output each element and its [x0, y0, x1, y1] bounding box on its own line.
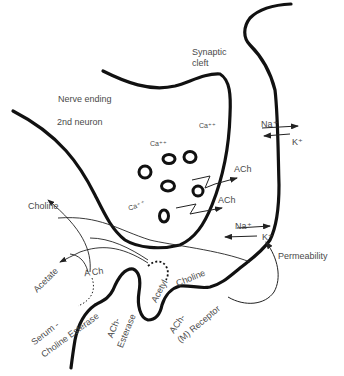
potassium-label-top: K⁺: [292, 138, 303, 147]
ach-release-label-2: ACh: [218, 196, 236, 205]
choline-label-left: Choline: [28, 202, 59, 211]
calcium-label-2: Ca⁺⁺: [199, 122, 216, 129]
ach-release-arrow-2: [176, 204, 222, 214]
nerve-ending-membrane: [13, 71, 230, 248]
ach-release-label-1: ACh: [234, 165, 252, 174]
acetylcholine-binding-dotted: [148, 262, 168, 281]
potassium-label-bottom: K⁺: [262, 233, 273, 242]
permeability-label: Permeability: [278, 252, 328, 261]
serum-esterase-dotted: [78, 278, 93, 306]
sodium-label-bottom: Na⁺: [235, 222, 252, 231]
synapse-diagram: [0, 0, 344, 376]
synaptic-cleft-label-2: cleft: [192, 59, 209, 68]
second-neuron-label: 2nd neuron: [57, 118, 103, 127]
choline-return-arrow: [58, 218, 250, 262]
sodium-label-top: Na⁺: [261, 120, 278, 129]
k-arrow-bottom: [225, 236, 257, 237]
vesicles: [139, 152, 203, 223]
acetate-arrow: [60, 248, 148, 263]
synaptic-cleft-label-1: Synaptic: [192, 48, 227, 57]
nerve-ending-label: Nerve ending: [58, 95, 112, 104]
choline-line-upper: [90, 238, 148, 260]
calcium-label-1: Ca⁺⁺: [150, 140, 167, 147]
